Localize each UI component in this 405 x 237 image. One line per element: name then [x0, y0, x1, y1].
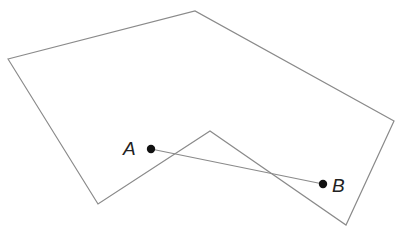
diagram-canvas: A B	[0, 0, 405, 237]
segment-a-b	[151, 149, 323, 184]
point-a-label: A	[122, 138, 136, 159]
point-b-label: B	[332, 175, 345, 196]
point-b	[319, 180, 327, 188]
point-a	[147, 145, 155, 153]
